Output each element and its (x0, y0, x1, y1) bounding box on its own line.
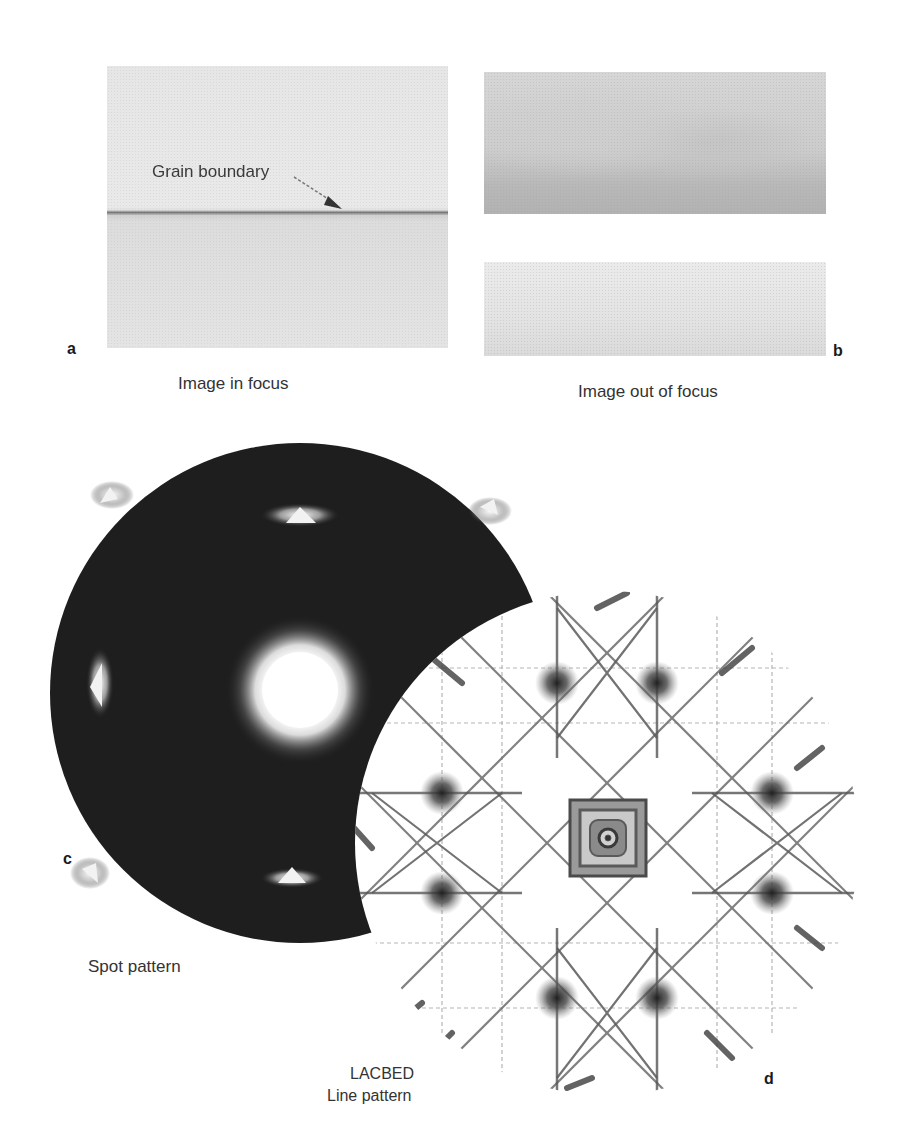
panel-label-b: b (833, 342, 843, 360)
grain-boundary-arrow-icon (292, 174, 352, 214)
lacbed-central-square (570, 800, 646, 876)
grain-boundary-label: Grain boundary (152, 162, 269, 182)
image-grain-texture (484, 72, 826, 214)
panel-b-top-image (484, 72, 826, 214)
grain-boundary-line (107, 210, 448, 215)
caption-lacbed-line1: LACBED (350, 1065, 414, 1083)
caption-image-out-of-focus: Image out of focus (578, 382, 718, 402)
panel-label-d: d (764, 1070, 774, 1088)
caption-spot-pattern: Spot pattern (88, 957, 181, 977)
panel-a-image-in-focus: Grain boundary (107, 66, 448, 348)
panel-d-lacbed-line-pattern (352, 588, 862, 1098)
image-grain-texture (484, 262, 826, 356)
caption-lacbed-line2: Line pattern (327, 1087, 412, 1105)
panel-label-a: a (67, 340, 76, 358)
image-grain-texture (107, 66, 448, 348)
caption-image-in-focus: Image in focus (178, 374, 289, 394)
panel-b-bottom-image (484, 262, 826, 356)
panel-label-c: c (63, 850, 72, 868)
